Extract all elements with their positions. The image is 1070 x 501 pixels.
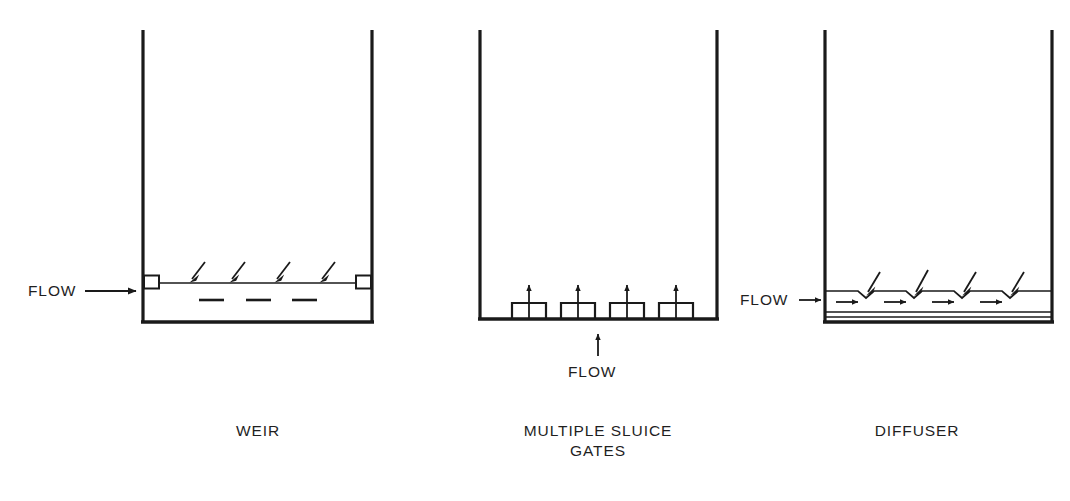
sluice-flow-label: FLOW [568, 363, 616, 380]
weir-plate-right [356, 276, 371, 289]
panel-diffuser: FLOW DIFFUSER [740, 30, 1054, 439]
diffuser-notch-arrow [1010, 272, 1024, 296]
panel-weir: FLOW WEIR [28, 30, 374, 439]
sluice-caption-line-1: MULTIPLE SLUICE [524, 422, 672, 439]
figure-root: FLOW WEIR [0, 0, 1070, 501]
diffuser-notch-arrow [866, 272, 880, 296]
weir-plate-left [144, 276, 159, 289]
sluice-caption-line-2: GATES [570, 442, 626, 459]
diffuser-flow-label: FLOW [740, 291, 788, 308]
panel-multiple-sluice-gates: FLOW MULTIPLE SLUICE GATES [478, 30, 719, 459]
diffuser-channel-top-notched-edge [826, 291, 1051, 298]
sluice-gate [561, 285, 595, 319]
sluice-gate [512, 285, 546, 319]
weir-surface-arrow [320, 262, 336, 282]
weir-caption: WEIR [236, 422, 280, 439]
weir-surface-arrow [230, 262, 246, 282]
engineering-diagram: FLOW WEIR [0, 0, 1070, 501]
weir-surface-arrow [190, 262, 206, 282]
sluice-gate [659, 285, 693, 319]
sluice-gate-group [512, 285, 693, 319]
diffuser-caption: DIFFUSER [875, 422, 960, 439]
weir-flow-label: FLOW [28, 282, 76, 299]
weir-surface-arrow [275, 262, 291, 282]
weir-surface-arrow-group [190, 262, 336, 282]
diffuser-notch-arrow [962, 272, 976, 296]
sluice-gate [610, 285, 644, 319]
